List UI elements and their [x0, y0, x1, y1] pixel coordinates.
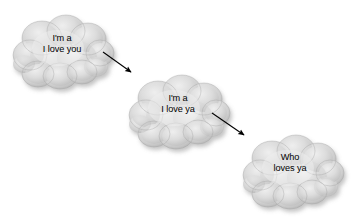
cloud-group-3 — [243, 135, 344, 209]
diagram-canvas: I'm a I love you I'm a I love ya Who lov… — [0, 0, 354, 220]
cloud-group-2 — [129, 75, 230, 149]
cloud-diagram — [0, 0, 354, 220]
cloud-group-1 — [13, 15, 114, 89]
